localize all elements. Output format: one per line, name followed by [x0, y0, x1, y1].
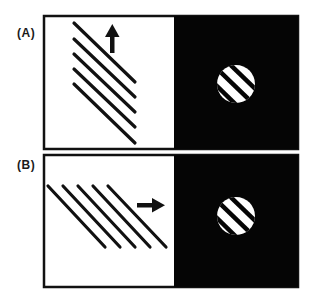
aperture-diagram	[0, 0, 314, 303]
panel-a	[44, 16, 298, 149]
panel-b	[44, 155, 298, 287]
